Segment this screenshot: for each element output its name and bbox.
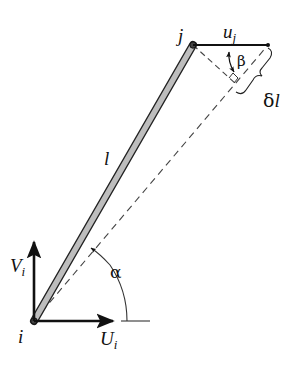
beta-angle-arc — [229, 52, 234, 72]
member-length-label: l — [104, 148, 109, 169]
ui-label: Ui — [100, 328, 118, 352]
uj-label-main: u — [223, 21, 233, 42]
alpha-angle-arc — [91, 248, 127, 321]
delta-l-symbol: l — [274, 90, 279, 111]
uj-label: uj — [223, 21, 237, 45]
node-j-label: j — [175, 25, 183, 46]
node-i-label: i — [18, 326, 23, 347]
delta-l-label: δl — [263, 89, 280, 111]
truss-diagram: j i l Vi Ui uj α β δl — [0, 0, 299, 369]
ui-label-sub: i — [114, 337, 118, 352]
displaced-member-dashed-line — [34, 45, 268, 321]
vi-label-sub: i — [22, 264, 26, 279]
beta-label: β — [237, 52, 246, 70]
delta-symbol: δ — [263, 89, 274, 111]
alpha-label: α — [110, 262, 122, 282]
perpendicular-dashed-line — [193, 45, 236, 84]
vi-label: Vi — [10, 255, 26, 279]
